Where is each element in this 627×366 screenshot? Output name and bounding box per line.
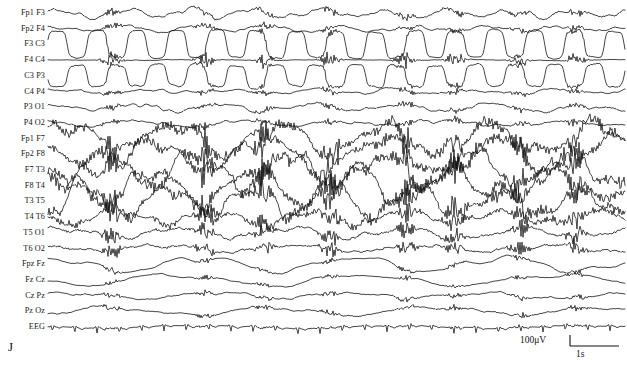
eeg-trace-fp1-f3 xyxy=(48,6,625,21)
eeg-trace-canvas xyxy=(0,0,627,366)
panel-letter: J xyxy=(8,340,13,353)
scale-bar-path xyxy=(570,335,619,346)
eeg-trace-f8-t4 xyxy=(48,153,625,215)
eeg-trace-fp1-f7 xyxy=(48,114,625,165)
eeg-trace-t6-o2 xyxy=(48,238,625,258)
scale-bar: 100μV 1s xyxy=(520,334,623,364)
eeg-trace-p4-o2 xyxy=(48,116,625,130)
eeg-trace-eeg xyxy=(48,324,625,334)
eeg-trace-f4-c4 xyxy=(48,52,625,69)
eeg-trace-c4-p4 xyxy=(48,87,625,97)
eeg-trace-c3-p3 xyxy=(48,62,625,90)
scale-amplitude-label: 100μV xyxy=(520,336,546,346)
eeg-trace-f3-c3 xyxy=(48,29,625,60)
eeg-trace-fz-cz xyxy=(48,273,625,288)
eeg-trace-p3-o1 xyxy=(48,101,625,114)
scale-bar-rule xyxy=(568,334,623,350)
eeg-figure-panel: Fp1 F3Fp2 F4F3 C3F4 C4C3 P3C4 P4P3 O1P4 … xyxy=(0,0,627,366)
scale-time-label: 1s xyxy=(576,350,584,360)
eeg-trace-t4-t6 xyxy=(48,202,625,236)
eeg-trace-pz-oz xyxy=(48,304,625,318)
eeg-trace-t5-o1 xyxy=(48,219,625,245)
eeg-trace-fpz-fz xyxy=(48,255,625,275)
eeg-trace-cz-pz xyxy=(48,290,625,302)
